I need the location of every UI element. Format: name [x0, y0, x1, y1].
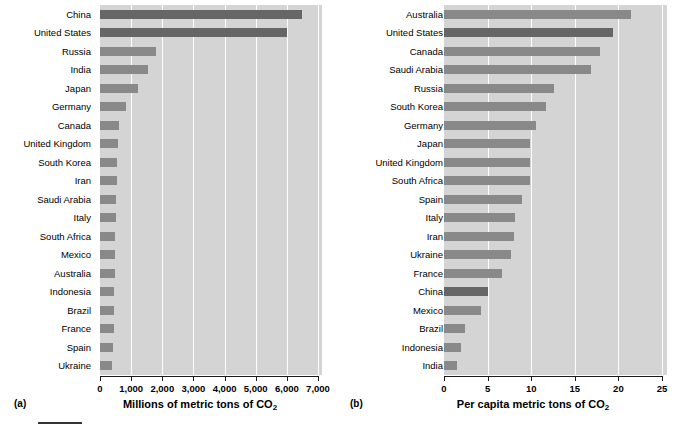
x-axis-tick — [444, 376, 445, 381]
x-axis-tick — [287, 376, 288, 381]
bar — [100, 176, 117, 185]
x-axis-tick-label: 0 — [97, 383, 102, 394]
x-axis-tick-label: 10 — [526, 383, 537, 394]
bar — [444, 102, 546, 111]
bar-row — [100, 209, 322, 228]
bar-row — [444, 246, 667, 265]
category-label: Russia — [0, 42, 96, 61]
bar — [444, 232, 514, 241]
bar — [444, 84, 554, 93]
bar — [444, 176, 530, 185]
x-axis-tick — [662, 376, 663, 381]
bar-row — [100, 42, 322, 61]
category-label: United Kingdom — [352, 153, 448, 172]
chart-panel-b: AustraliaUnited StatesCanadaSaudi Arabia… — [340, 0, 674, 427]
x-axis-title-subscript: 2 — [605, 403, 609, 412]
bar — [444, 213, 515, 222]
bar-row — [100, 79, 322, 98]
category-labels-a: ChinaUnited StatesRussiaIndiaJapanGerman… — [0, 5, 96, 375]
category-label: United Kingdom — [0, 135, 96, 154]
x-axis-tick-label: 4,000 — [213, 383, 237, 394]
bar — [100, 10, 302, 19]
bar — [100, 287, 114, 296]
bar-row — [100, 116, 322, 135]
category-label: United States — [352, 24, 448, 43]
bar — [100, 306, 114, 315]
bar-row — [100, 264, 322, 283]
bar — [444, 269, 502, 278]
bar-row — [444, 5, 667, 24]
x-axis-tick — [162, 376, 163, 381]
bar-row — [444, 227, 667, 246]
x-axis-line-b — [444, 376, 662, 377]
bar — [100, 158, 117, 167]
bar — [100, 343, 113, 352]
bar-row — [100, 61, 322, 80]
bar-row — [100, 5, 322, 24]
bar-row — [444, 357, 667, 376]
bar-row — [444, 283, 667, 302]
bar — [444, 10, 631, 19]
category-label: Indonesia — [352, 338, 448, 357]
category-label: Australia — [352, 5, 448, 24]
bar — [100, 250, 115, 259]
bar-row — [100, 227, 322, 246]
category-label: Mexico — [352, 301, 448, 320]
bar — [444, 65, 591, 74]
x-axis-title-text: Millions of metric tons of CO — [123, 398, 273, 410]
x-axis-tick — [100, 376, 101, 381]
category-label: Indonesia — [0, 283, 96, 302]
bar-row — [444, 172, 667, 191]
bar — [444, 361, 457, 370]
category-label: Spain — [352, 190, 448, 209]
bar — [444, 139, 530, 148]
bar — [444, 158, 530, 167]
bar-row — [100, 135, 322, 154]
bar — [100, 324, 114, 333]
bar-row — [444, 301, 667, 320]
bar — [100, 28, 287, 37]
x-axis-tick-label: 25 — [657, 383, 668, 394]
panel-caption-b: (b) — [350, 398, 363, 409]
category-label: Canada — [352, 42, 448, 61]
bar — [100, 361, 112, 370]
footer-rule — [38, 422, 82, 424]
bar-row — [444, 264, 667, 283]
x-axis-tick-label: 0 — [441, 383, 446, 394]
category-label: South Africa — [352, 172, 448, 191]
bar-row — [444, 42, 667, 61]
bar-series-b — [444, 5, 667, 375]
x-axis-title-b: Per capita metric tons of CO2 — [392, 398, 674, 410]
category-label: South Korea — [352, 98, 448, 117]
category-label: South Korea — [0, 153, 96, 172]
bar-row — [100, 190, 322, 209]
category-label: Germany — [352, 116, 448, 135]
category-label: Italy — [352, 209, 448, 228]
category-label: France — [0, 320, 96, 339]
x-axis-tick — [225, 376, 226, 381]
category-label: Japan — [0, 79, 96, 98]
bar-row — [100, 172, 322, 191]
bar — [444, 47, 600, 56]
category-label: Germany — [0, 98, 96, 117]
bar — [100, 47, 156, 56]
x-axis-tick — [575, 376, 576, 381]
chart-panel-a: ChinaUnited StatesRussiaIndiaJapanGerman… — [0, 0, 340, 427]
bar — [444, 28, 613, 37]
category-label: Saudi Arabia — [0, 190, 96, 209]
x-axis-tick — [193, 376, 194, 381]
x-axis-tick — [531, 376, 532, 381]
x-axis-tick-label: 20 — [613, 383, 624, 394]
bar-row — [100, 357, 322, 376]
category-label: South Africa — [0, 227, 96, 246]
x-axis-tick — [131, 376, 132, 381]
category-label: Saudi Arabia — [352, 61, 448, 80]
category-label: India — [352, 357, 448, 376]
bar — [444, 287, 488, 296]
category-label: Ukraine — [0, 357, 96, 376]
category-label: China — [0, 5, 96, 24]
bar-row — [444, 116, 667, 135]
category-labels-b: AustraliaUnited StatesCanadaSaudi Arabia… — [352, 5, 448, 375]
category-label: Mexico — [0, 246, 96, 265]
category-label: China — [352, 283, 448, 302]
